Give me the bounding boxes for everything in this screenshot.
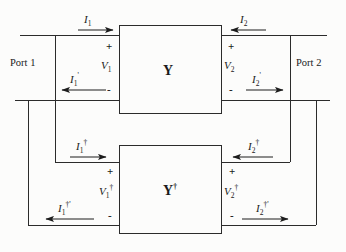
lower-block-dagger: †	[173, 182, 177, 191]
v2-plus-sign: +	[228, 41, 234, 52]
i2-sub: 2	[244, 19, 248, 28]
v1d-base: V	[99, 185, 106, 197]
voltage-v2-label: V2	[224, 58, 234, 73]
i1d-sub: 1	[80, 146, 84, 155]
i2d-sup: †	[255, 138, 259, 147]
i2p-sub: 2	[256, 79, 260, 88]
v2-dagger-plus-sign: +	[229, 166, 235, 177]
lower-block-name: Y	[163, 183, 173, 198]
current-i2-prime-label: I2'	[252, 72, 261, 87]
lower-block-label: Y†	[163, 183, 177, 198]
i1d-sup: †	[83, 138, 87, 147]
circuit-wiring-svg	[0, 0, 346, 252]
v1-sub: 1	[108, 65, 112, 74]
current-i1-label: I1	[84, 12, 91, 27]
voltage-v2-dagger-label: V2†	[224, 184, 238, 199]
current-i1-prime-label: I1'	[70, 72, 79, 87]
v2d-sub: 2	[231, 191, 235, 200]
upper-block-name: Y	[163, 63, 173, 78]
two-port-network-figure: Port 1 Port 2 Y Y† I1 I1' I2 I2' + V1 - …	[0, 0, 346, 252]
port-2-label: Port 2	[296, 58, 321, 69]
voltage-v1-label: V1	[101, 58, 111, 73]
i1p-sub: 1	[74, 79, 78, 88]
v1-plus-sign: +	[106, 41, 112, 52]
current-i1-dagger-prime-label: I1†'	[58, 201, 71, 216]
v1-dagger-minus-sign: -	[108, 210, 112, 221]
v1-dagger-plus-sign: +	[107, 166, 113, 177]
v2-minus-sign: -	[229, 84, 233, 95]
i1dp-sup: †'	[65, 200, 70, 209]
current-i1-dagger-label: I1†	[76, 139, 87, 154]
v2d-base: V	[224, 185, 231, 197]
i1p-sup: '	[77, 71, 78, 80]
v1d-sub: 1	[106, 191, 110, 200]
v2-dagger-minus-sign: -	[230, 210, 234, 221]
v2-base: V	[224, 59, 231, 71]
v1d-sup: †	[109, 183, 113, 192]
i2p-sup: '	[259, 71, 260, 80]
current-i2-dagger-prime-label: I2†'	[256, 201, 269, 216]
v1-base: V	[101, 59, 108, 71]
port-1-label: Port 1	[10, 58, 35, 69]
v1-minus-sign: -	[107, 84, 111, 95]
v2d-sup: †	[234, 183, 238, 192]
i2dp-sup: †'	[263, 200, 268, 209]
current-i2-dagger-label: I2†	[248, 139, 259, 154]
i1dp-sub: 1	[62, 208, 66, 217]
i2dp-sub: 2	[260, 208, 264, 217]
i2d-sub: 2	[252, 146, 256, 155]
voltage-v1-dagger-label: V1†	[99, 184, 113, 199]
v2-sub: 2	[231, 65, 235, 74]
current-i2-label: I2	[240, 12, 247, 27]
i1-sub: 1	[88, 19, 92, 28]
upper-block-label: Y	[163, 63, 173, 78]
